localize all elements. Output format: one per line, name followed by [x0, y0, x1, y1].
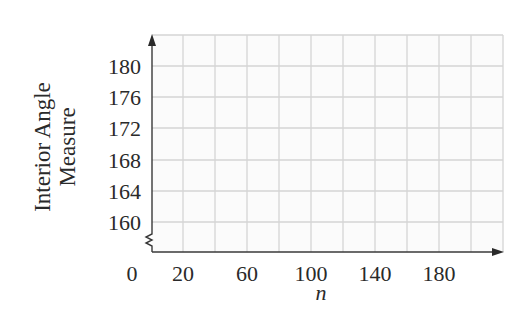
chart: 180 176 172 168 164 160 0 20 60 100 140 …: [0, 0, 525, 327]
x-tick-labels: 0 20 60 100 140 180: [127, 261, 456, 286]
y-tick-label: 172: [108, 116, 141, 141]
x-axis-title: n: [316, 280, 327, 305]
y-tick-label: 180: [108, 54, 141, 79]
x-tick-label: 0: [127, 261, 138, 286]
x-tick-label: 180: [423, 261, 456, 286]
y-tick-label: 168: [108, 148, 141, 173]
x-tick-label: 140: [359, 261, 392, 286]
y-tick-labels: 180 176 172 168 164 160: [108, 54, 141, 235]
plot-area: [152, 35, 503, 252]
y-tick-label: 160: [108, 210, 141, 235]
y-axis-title-line1: Interior Angle: [30, 82, 55, 212]
x-tick-label: 20: [172, 261, 194, 286]
y-tick-label: 176: [108, 85, 141, 110]
y-axis-title-line2: Measure: [55, 107, 80, 186]
y-axis-title: Interior Angle Measure: [30, 82, 80, 212]
y-tick-label: 164: [108, 179, 141, 204]
x-tick-label: 60: [236, 261, 258, 286]
